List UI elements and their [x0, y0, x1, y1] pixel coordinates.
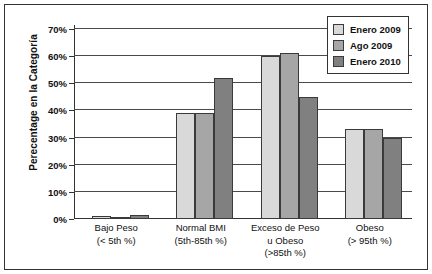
legend-label: Enero 2010: [350, 56, 401, 67]
y-tick-label: 0%: [53, 214, 67, 225]
bar-group: [92, 29, 149, 219]
legend-item[interactable]: Ago 2009: [333, 37, 401, 53]
legend-label: Enero 2009: [350, 24, 401, 35]
x-axis-label: Bajo Peso(< 5th %): [74, 222, 159, 247]
y-tick-label: 60%: [48, 51, 67, 62]
legend-item[interactable]: Enero 2010: [333, 53, 401, 69]
chart-legend: Enero 2009Ago 2009Enero 2010: [327, 16, 409, 74]
bar[interactable]: [92, 216, 111, 219]
x-axis-label-line: Exceso de Peso: [243, 222, 328, 235]
bar[interactable]: [195, 113, 214, 219]
bar[interactable]: [111, 217, 130, 219]
bar[interactable]: [364, 129, 383, 219]
bar[interactable]: [280, 53, 299, 219]
legend-swatch-icon: [333, 40, 344, 51]
y-tick-label: 50%: [48, 78, 67, 89]
y-axis-title: Perecentage en la Categoría: [28, 13, 39, 193]
y-tick-label: 40%: [48, 105, 67, 116]
x-axis-label: Normal BMI(5th-85th %): [159, 222, 244, 247]
bar[interactable]: [383, 138, 402, 219]
bar-group: [261, 29, 318, 219]
bar[interactable]: [299, 97, 318, 219]
y-tick-mark: [69, 219, 74, 220]
bar-group: [176, 29, 233, 219]
x-axis-label: Obeso(> 95th %): [328, 222, 413, 247]
x-axis-labels: Bajo Peso(< 5th %)Normal BMI(5th-85th %)…: [74, 222, 412, 272]
x-axis-label-line: Bajo Peso: [74, 222, 159, 235]
legend-swatch-icon: [333, 24, 344, 35]
legend-swatch-icon: [333, 56, 344, 67]
chart-frame: Perecentage en la Categoría 0%10%20%30%4…: [4, 4, 428, 270]
x-axis-label-line: u Obeso: [243, 235, 328, 248]
legend-label: Ago 2009: [350, 40, 392, 51]
x-axis-label-line: Obeso: [328, 222, 413, 235]
y-tick-label: 30%: [48, 132, 67, 143]
bar[interactable]: [214, 78, 233, 219]
y-tick-label: 10%: [48, 186, 67, 197]
legend-item[interactable]: Enero 2009: [333, 21, 401, 37]
y-tick-label: 70%: [48, 24, 67, 35]
bar[interactable]: [176, 113, 195, 219]
bar[interactable]: [261, 56, 280, 219]
x-axis-label-line: (< 5th %): [74, 235, 159, 248]
x-axis-label: Exceso de Pesou Obeso(>85th %): [243, 222, 328, 260]
y-tick-label: 20%: [48, 159, 67, 170]
x-axis-label-line: (> 95th %): [328, 235, 413, 248]
bar[interactable]: [345, 129, 364, 219]
x-axis-label-line: Normal BMI: [159, 222, 244, 235]
bar[interactable]: [130, 215, 149, 219]
x-axis-label-line: (>85th %): [243, 247, 328, 260]
x-axis-label-line: (5th-85th %): [159, 235, 244, 248]
